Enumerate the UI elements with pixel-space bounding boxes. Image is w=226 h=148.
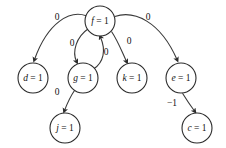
edge-weight-e-c: −1: [167, 98, 177, 108]
graph-canvas: f = 1d = 1g = 1k = 1e = 1j = 1c = 1 0000…: [0, 0, 226, 148]
node-label-k: k = 1: [122, 73, 141, 83]
node-d[interactable]: d = 1: [18, 63, 48, 93]
node-f[interactable]: f = 1: [85, 6, 115, 36]
edge-weight-g-j: 0: [55, 87, 60, 97]
edge-g-j: [65, 91, 75, 111]
edge-weight-f-g: 0: [70, 38, 75, 48]
node-e[interactable]: e = 1: [166, 63, 196, 93]
edge-g-f: [94, 37, 104, 69]
node-g[interactable]: g = 1: [68, 63, 98, 93]
node-k[interactable]: k = 1: [117, 63, 147, 93]
edge-f-g: [75, 29, 89, 62]
node-label-e: e = 1: [171, 73, 190, 83]
edge-f-d: [35, 14, 87, 59]
node-label-c: c = 1: [187, 123, 206, 133]
node-label-d: d = 1: [23, 73, 43, 83]
node-j[interactable]: j = 1: [50, 113, 80, 143]
edge-f-k: [112, 32, 127, 62]
node-label-j: j = 1: [54, 123, 74, 133]
node-label-f: f = 1: [91, 16, 109, 26]
edge-weight-g-f: 0: [104, 47, 109, 57]
edge-weight-f-k: 0: [127, 36, 132, 46]
graph-figure: f = 1d = 1g = 1k = 1e = 1j = 1c = 1 0000…: [0, 0, 226, 148]
edge-weight-f-d: 0: [55, 12, 60, 22]
node-c[interactable]: c = 1: [182, 113, 212, 143]
nodes-layer: f = 1d = 1g = 1k = 1e = 1j = 1c = 1: [18, 6, 212, 143]
node-label-g: g = 1: [73, 73, 93, 83]
edge-weight-f-e: 0: [146, 12, 151, 22]
edge-e-c: [183, 93, 195, 111]
